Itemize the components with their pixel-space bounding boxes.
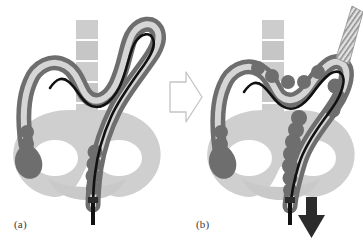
scope-shaft-hatched <box>336 6 363 64</box>
panel-a <box>13 20 160 225</box>
figure-root: (a) (b) <box>0 0 363 245</box>
withdrawal-arrow <box>298 197 325 238</box>
panel-a-caption: (a) <box>14 218 27 230</box>
panel-b-caption: (b) <box>196 218 209 230</box>
transition-arrow <box>170 72 202 122</box>
colonoscopy-loop-figure <box>0 0 363 245</box>
anus-marker-b <box>285 197 295 203</box>
panel-b <box>207 6 363 238</box>
anus-marker-a <box>88 197 98 203</box>
